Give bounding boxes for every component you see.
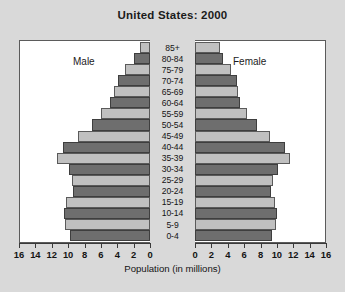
age-group-label: 70-74: [150, 75, 195, 86]
female-bar: [195, 219, 276, 230]
axis-tick-label: 0: [147, 249, 152, 260]
pyramid-row: 80-84: [19, 53, 326, 64]
age-group-label: 5-9: [150, 219, 195, 230]
age-group-label: 15-19: [150, 197, 195, 208]
female-bar-cell: [195, 108, 326, 119]
axis-tick: [68, 243, 69, 248]
x-axis-tick-labels-right: 0246810121416: [195, 249, 326, 262]
male-bar-cell: [19, 142, 150, 153]
axis-tick: [52, 243, 53, 248]
female-bar: [195, 175, 273, 186]
axis-tick: [85, 243, 86, 248]
female-bar: [195, 119, 257, 130]
age-group-label: 35-39: [150, 153, 195, 164]
male-bar: [92, 119, 150, 130]
axis-tick: [326, 243, 327, 248]
female-bar: [195, 197, 275, 208]
pyramid-row: 30-34: [19, 164, 326, 175]
x-axis-title: Population (in millions): [0, 263, 345, 274]
female-bar-cell: [195, 75, 326, 86]
age-group-label: 20-24: [150, 186, 195, 197]
female-bar-cell: [195, 208, 326, 219]
male-bar-cell: [19, 131, 150, 142]
axis-tick: [228, 243, 229, 248]
age-group-label: 40-44: [150, 142, 195, 153]
pyramid-row: 55-59: [19, 108, 326, 119]
female-bar: [195, 75, 237, 86]
female-bar-cell: [195, 142, 326, 153]
male-bar: [57, 153, 150, 164]
axis-tick-label: 16: [321, 249, 331, 260]
axis-tick: [117, 243, 118, 248]
axis-tick-label: 6: [242, 249, 247, 260]
age-group-label: 80-84: [150, 53, 195, 64]
female-bar: [195, 230, 272, 241]
male-bar-cell: [19, 153, 150, 164]
female-bar-cell: [195, 131, 326, 142]
age-group-label: 60-64: [150, 97, 195, 108]
x-axis-tick-labels-left: 1614121086420: [19, 249, 150, 262]
pyramid-row: 0-4: [19, 230, 326, 241]
male-bar-cell: [19, 86, 150, 97]
axis-tick-label: 8: [258, 249, 263, 260]
axis-tick: [293, 243, 294, 248]
male-bar-cell: [19, 108, 150, 119]
pyramid-row: 50-54: [19, 119, 326, 130]
female-bar: [195, 42, 220, 53]
male-bar: [65, 219, 150, 230]
x-axis-ticks-right: [195, 243, 326, 248]
pyramid-row: 25-29: [19, 175, 326, 186]
female-bar-cell: [195, 119, 326, 130]
female-bar: [195, 164, 278, 175]
female-bar-cell: [195, 42, 326, 53]
male-bar: [140, 42, 150, 53]
female-bar-cell: [195, 164, 326, 175]
axis-tick-label: 12: [288, 249, 298, 260]
female-bar: [195, 64, 231, 75]
axis-tick: [277, 243, 278, 248]
male-bar: [78, 131, 150, 142]
pyramid-row: 60-64: [19, 97, 326, 108]
female-bar-cell: [195, 86, 326, 97]
male-bar-cell: [19, 42, 150, 53]
age-group-label: 55-59: [150, 108, 195, 119]
series-label-female: Female: [233, 56, 266, 67]
axis-tick: [35, 243, 36, 248]
male-bar-cell: [19, 75, 150, 86]
male-bar: [118, 75, 150, 86]
chart-title: United States: 2000: [0, 9, 345, 21]
female-bar: [195, 208, 277, 219]
male-bar-cell: [19, 208, 150, 219]
female-bar: [195, 186, 271, 197]
female-bar: [195, 131, 270, 142]
male-bar: [101, 108, 150, 119]
pyramid-row: 20-24: [19, 186, 326, 197]
pyramid-row: 65-69: [19, 86, 326, 97]
female-bar-cell: [195, 230, 326, 241]
axis-tick-label: 10: [272, 249, 282, 260]
male-bar: [73, 186, 150, 197]
axis-tick: [101, 243, 102, 248]
female-bar: [195, 53, 223, 64]
pyramid-row: 45-49: [19, 131, 326, 142]
age-group-label: 0-4: [150, 230, 195, 241]
axis-tick-label: 8: [82, 249, 87, 260]
male-bar: [66, 197, 150, 208]
female-bar: [195, 86, 238, 97]
age-group-label: 85+: [150, 42, 195, 53]
male-bar: [114, 86, 150, 97]
male-bar-cell: [19, 219, 150, 230]
age-group-label: 10-14: [150, 208, 195, 219]
age-group-label: 25-29: [150, 175, 195, 186]
pyramid-row: 75-79: [19, 64, 326, 75]
age-group-label: 45-49: [150, 131, 195, 142]
axis-tick: [310, 243, 311, 248]
pyramid-row: 15-19: [19, 197, 326, 208]
axis-tick: [195, 243, 196, 248]
female-bar: [195, 153, 290, 164]
age-group-label: 75-79: [150, 64, 195, 75]
female-bar-cell: [195, 197, 326, 208]
female-bar: [195, 97, 240, 108]
male-bar: [69, 164, 150, 175]
pyramid-rows: 85+80-8475-7970-7465-6960-6455-5950-5445…: [19, 42, 326, 241]
